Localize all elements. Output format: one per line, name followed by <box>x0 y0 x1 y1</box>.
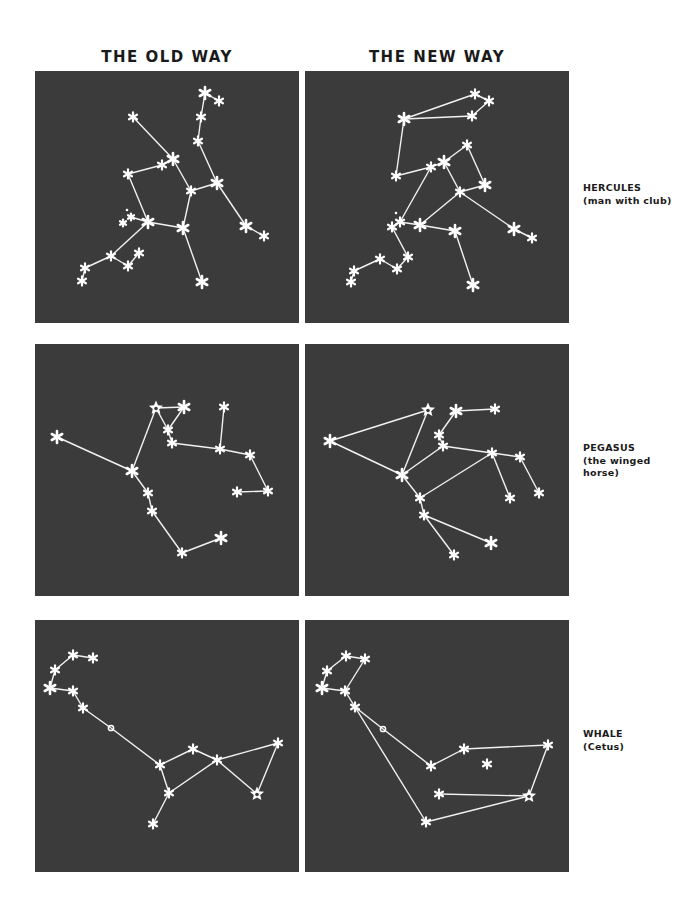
whale-old-way-panel <box>35 620 299 872</box>
pegasus-old-way-panel <box>35 344 299 596</box>
star-icon <box>156 760 164 769</box>
constellation-line <box>217 760 257 794</box>
constellation-name: HERCULES <box>583 182 672 195</box>
star-icon <box>274 738 282 747</box>
constellation-line <box>402 475 420 498</box>
hercules-label: HERCULES (man with club) <box>583 182 672 207</box>
constellation-line <box>492 453 510 498</box>
star-icon <box>325 435 335 447</box>
constellation-line <box>383 729 431 766</box>
constellation-subtitle: (man with club) <box>583 195 672 208</box>
star-icon <box>165 788 173 797</box>
star-icon <box>427 761 435 770</box>
constellation-line <box>330 441 402 475</box>
constellation-line <box>404 94 475 119</box>
pegasus-label: PEGASUS (the winged horse) <box>583 442 651 480</box>
star-icon <box>376 254 384 263</box>
star-icon <box>216 532 226 544</box>
constellation-line <box>426 796 529 822</box>
star-icon <box>439 156 449 168</box>
star-icon <box>471 89 479 98</box>
constellation-line <box>132 471 148 493</box>
constellation-line <box>444 162 460 192</box>
constellation-line <box>153 793 169 824</box>
hercules-new-way-panel <box>305 71 569 323</box>
star-icon <box>200 87 210 99</box>
whale-label: WHALE (Cetus) <box>583 728 624 753</box>
constellation-line <box>111 728 160 765</box>
star-icon <box>78 276 86 285</box>
star-icon <box>52 431 62 443</box>
constellation-line <box>198 141 217 183</box>
star-icon <box>187 186 195 195</box>
column-title-new-way: THE NEW WAY <box>305 48 569 66</box>
constellation-line <box>396 119 404 176</box>
constellation-line <box>467 145 485 185</box>
constellation-line <box>169 760 217 793</box>
star-icon <box>250 787 264 801</box>
star-icon <box>260 231 268 240</box>
constellation-line <box>420 192 460 225</box>
constellation-line <box>455 231 473 285</box>
constellation-line <box>168 407 184 430</box>
constellation-line <box>172 443 220 449</box>
star-icon <box>506 493 514 502</box>
constellation-subtitle: (Cetus) <box>583 741 624 754</box>
star-icon <box>463 140 471 149</box>
star-icon <box>522 789 536 803</box>
whale-new-constellation <box>305 620 569 872</box>
constellation-line <box>529 745 548 796</box>
constellation-name: WHALE <box>583 728 624 741</box>
star-icon <box>128 214 134 221</box>
star-icon <box>124 169 132 178</box>
constellation-line <box>220 407 224 449</box>
star-icon <box>194 136 202 145</box>
constellation-line <box>237 491 268 492</box>
constellation-line <box>439 411 456 435</box>
pegasus-new-way-panel <box>305 344 569 596</box>
star-icon <box>421 403 435 417</box>
constellation-line <box>183 228 202 282</box>
constellation-line <box>152 511 182 553</box>
star-icon <box>388 222 396 231</box>
constellation-line <box>250 455 268 491</box>
constellation-line <box>464 745 548 749</box>
star-icon <box>350 266 358 275</box>
star-icon <box>189 744 197 753</box>
pegasus-old-constellation <box>35 344 299 596</box>
constellation-line <box>520 457 539 493</box>
star-icon <box>468 279 478 291</box>
whale-new-way-panel <box>305 620 569 872</box>
constellation-line <box>355 707 426 822</box>
star-icon <box>197 276 207 288</box>
star-icon <box>126 209 129 212</box>
constellation-line <box>439 794 529 796</box>
star-icon <box>483 759 491 768</box>
constellation-line <box>330 410 428 441</box>
star-icon <box>486 537 496 549</box>
whale-old-constellation <box>35 620 299 872</box>
constellation-line <box>345 659 365 691</box>
star-icon <box>395 212 398 215</box>
hercules-old-way-panel <box>35 71 299 323</box>
star-icon <box>509 223 519 235</box>
star-icon <box>480 179 490 191</box>
star-icon <box>535 488 543 497</box>
star-icon <box>81 263 89 272</box>
constellation-line <box>400 167 431 222</box>
constellation-line <box>133 117 173 159</box>
star-icon <box>528 233 536 242</box>
star-icon <box>347 277 355 286</box>
constellation-line <box>217 743 278 760</box>
constellation-line <box>217 183 246 226</box>
constellation-line <box>257 743 278 794</box>
hercules-new-constellation <box>305 71 569 323</box>
constellation-subtitle: (the winged <box>583 455 651 468</box>
constellation-line <box>404 116 472 119</box>
constellation-line <box>173 159 191 191</box>
star-icon <box>323 666 331 675</box>
constellation-line <box>420 453 492 498</box>
star-icon <box>197 112 205 121</box>
constellation-line <box>396 167 431 176</box>
constellation-name: PEGASUS <box>583 442 651 455</box>
